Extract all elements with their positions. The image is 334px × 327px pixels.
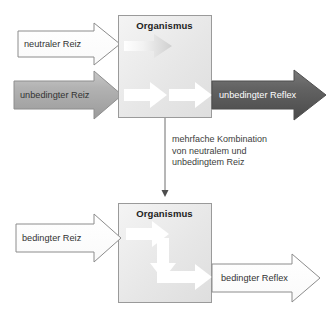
- label-bedingter-reiz: bedingter Reiz: [22, 234, 81, 243]
- connector-arrowhead-icon: [162, 190, 169, 197]
- organism-title-top: Organismus: [118, 20, 211, 31]
- organism-title-bottom: Organismus: [118, 208, 211, 219]
- diagram-canvas: Organismus Organismus neutraler Reiz unb…: [0, 0, 334, 327]
- label-unbedingter-reiz: unbedingter Reiz: [20, 91, 89, 100]
- combination-note: mehrfache Kombination von neutralem und …: [172, 134, 267, 169]
- label-bedingter-reflex: bedingter Reflex: [221, 274, 288, 283]
- label-unbedingter-reflex: unbedingter Reflex: [219, 91, 296, 100]
- label-neutraler-reiz: neutraler Reiz: [24, 40, 81, 49]
